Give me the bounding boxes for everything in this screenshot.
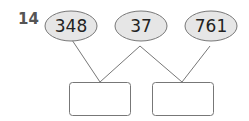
oval-3-value: 761 bbox=[195, 16, 227, 36]
answer-box-2[interactable] bbox=[153, 83, 214, 116]
line-oval3-box2 bbox=[182, 46, 210, 82]
line-oval2-box1 bbox=[100, 46, 140, 82]
number-tree-diagram: 348 37 761 bbox=[0, 0, 249, 121]
oval-2-value: 37 bbox=[130, 16, 152, 36]
oval-3: 761 bbox=[185, 11, 237, 41]
connector-lines bbox=[72, 40, 210, 82]
oval-2: 37 bbox=[115, 11, 167, 41]
line-oval2-box2 bbox=[140, 46, 182, 82]
answer-box-1[interactable] bbox=[70, 83, 131, 116]
line-oval1-box1 bbox=[72, 40, 100, 82]
oval-1-value: 348 bbox=[55, 16, 87, 36]
oval-1: 348 bbox=[45, 11, 97, 41]
